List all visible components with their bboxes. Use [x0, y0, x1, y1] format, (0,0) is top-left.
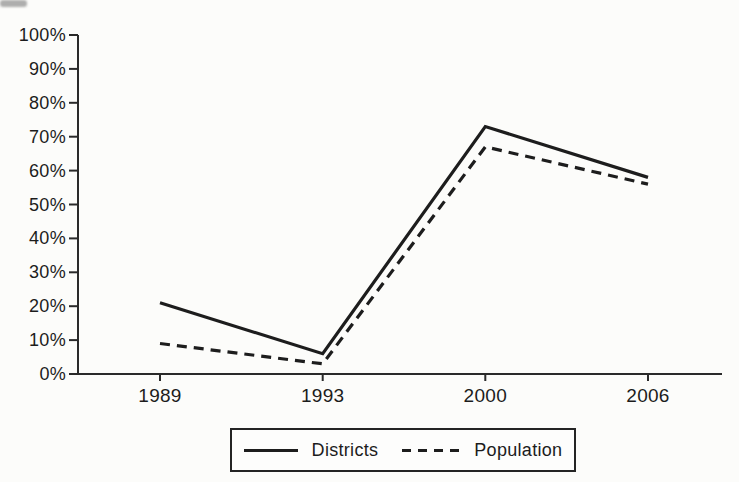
y-tick-label: 70%	[0, 126, 66, 148]
line-chart-figure: 0%10%20%30%40%50%60%70%80%90%100%1989199…	[0, 0, 739, 482]
x-tick-label: 2006	[608, 384, 688, 408]
legend-label-districts: Districts	[312, 440, 379, 461]
y-tick-label: 50%	[0, 194, 66, 216]
y-tick-label: 30%	[0, 261, 66, 283]
y-tick-label: 20%	[0, 295, 66, 317]
x-tick-label: 1989	[120, 384, 200, 408]
y-tick-label: 10%	[0, 329, 66, 351]
x-tick-label: 2000	[445, 384, 525, 408]
y-tick-label: 0%	[0, 363, 66, 385]
legend: Districts Population	[230, 428, 576, 472]
y-tick-label: 80%	[0, 92, 66, 114]
y-tick-label: 90%	[0, 58, 66, 80]
y-tick-label: 100%	[0, 24, 66, 46]
legend-label-population: Population	[474, 440, 562, 461]
population-line-sample	[402, 449, 460, 452]
y-tick-label: 40%	[0, 227, 66, 249]
districts-line-sample	[244, 449, 298, 452]
x-tick-label: 1993	[283, 384, 363, 408]
axis-labels-layer: 0%10%20%30%40%50%60%70%80%90%100%1989199…	[0, 0, 739, 482]
y-tick-label: 60%	[0, 160, 66, 182]
